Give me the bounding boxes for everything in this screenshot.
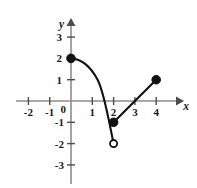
y-tick-label--1: -1 bbox=[55, 116, 64, 128]
y-tick-label-3: 3 bbox=[57, 31, 63, 43]
endpoint-closed-4-1 bbox=[152, 75, 161, 84]
x-tick-label-2: 2 bbox=[111, 106, 117, 118]
endpoint-open-2-neg2 bbox=[110, 140, 117, 147]
endpoint-closed-2-neg1 bbox=[109, 118, 118, 127]
x-tick-label-3: 3 bbox=[132, 106, 138, 118]
endpoint-closed-0-2 bbox=[67, 54, 76, 63]
y-tick-label-2: 2 bbox=[57, 52, 63, 64]
x-tick-label--1: -1 bbox=[45, 106, 54, 118]
y-axis-label: y bbox=[57, 18, 65, 31]
axes-group bbox=[16, 18, 184, 184]
x-tick-label-1: 1 bbox=[90, 106, 96, 118]
y-axis-arrowhead bbox=[67, 18, 76, 26]
x-tick-label--2: -2 bbox=[24, 106, 34, 118]
y-tick-label--3: -3 bbox=[55, 159, 65, 171]
x-tick-label-4: 4 bbox=[153, 106, 159, 118]
y-tick-label-1: 1 bbox=[57, 74, 63, 86]
x-tick-labels: -2 -1 1 2 3 4 bbox=[24, 106, 160, 118]
coordinate-plane-svg: -2 -1 1 2 3 4 3 2 1 0 -1 -2 -3 y x bbox=[0, 0, 197, 188]
y-tick-label--2: -2 bbox=[55, 138, 65, 150]
origin-label: 0 bbox=[61, 103, 67, 115]
graph-figure: -2 -1 1 2 3 4 3 2 1 0 -1 -2 -3 y x bbox=[0, 0, 197, 188]
x-axis-label: x bbox=[182, 100, 189, 112]
